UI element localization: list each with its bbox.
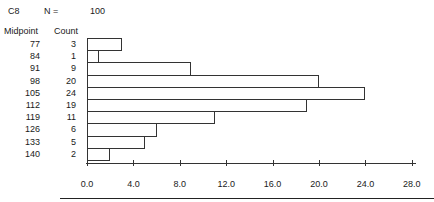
midpoint-label: 112 — [16, 100, 40, 110]
x-tick — [412, 160, 413, 166]
x-tick — [87, 158, 88, 166]
midpoint-label: 119 — [16, 112, 40, 122]
midpoint-label: 98 — [16, 76, 40, 86]
variable-label: C8 — [8, 6, 20, 16]
histogram-bar — [87, 75, 319, 88]
x-tick — [133, 160, 134, 166]
count-label: 9 — [58, 63, 76, 73]
count-label: 20 — [58, 76, 76, 86]
count-label: 24 — [58, 88, 76, 98]
midpoint-label: 105 — [16, 88, 40, 98]
count-label: 3 — [58, 39, 76, 49]
count-label: 2 — [58, 149, 76, 159]
count-header: Count — [54, 26, 78, 36]
x-tick-label: 16.0 — [258, 179, 288, 189]
x-tick-label: 12.0 — [211, 179, 241, 189]
x-tick-label: 28.0 — [397, 179, 427, 189]
bottom-rule — [60, 198, 434, 199]
histogram-bar — [87, 87, 365, 100]
x-tick-label: 20.0 — [304, 179, 334, 189]
x-tick — [319, 160, 320, 166]
midpoint-label: 84 — [16, 51, 40, 61]
midpoint-label: 133 — [16, 137, 40, 147]
n-value: 100 — [90, 6, 105, 16]
histogram-bar — [87, 148, 110, 161]
x-tick-label: 8.0 — [165, 179, 195, 189]
x-tick — [273, 160, 274, 166]
count-label: 1 — [58, 51, 76, 61]
x-tick-label: 4.0 — [118, 179, 148, 189]
histogram-bar — [87, 136, 145, 149]
count-label: 6 — [58, 124, 76, 134]
count-label: 5 — [58, 137, 76, 147]
x-tick-label: 0.0 — [72, 179, 102, 189]
count-label: 11 — [58, 112, 76, 122]
x-tick — [180, 160, 181, 166]
n-label: N = — [44, 6, 58, 16]
x-tick — [226, 160, 227, 166]
count-label: 19 — [58, 100, 76, 110]
midpoint-label: 77 — [16, 39, 40, 49]
histogram-bar — [87, 50, 99, 63]
histogram-bar — [87, 111, 215, 124]
histogram-bar — [87, 123, 157, 136]
midpoint-label: 91 — [16, 63, 40, 73]
histogram-bar — [87, 62, 191, 75]
midpoint-label: 140 — [16, 149, 40, 159]
x-tick — [365, 160, 366, 166]
midpoint-header: Midpoint — [4, 26, 38, 36]
midpoint-label: 126 — [16, 124, 40, 134]
x-axis — [86, 163, 416, 164]
x-tick-label: 24.0 — [350, 179, 380, 189]
